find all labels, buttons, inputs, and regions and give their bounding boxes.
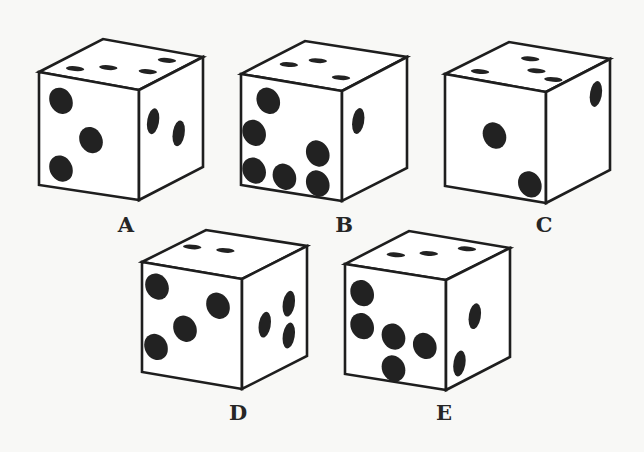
option-label-b[interactable]: B <box>335 212 353 237</box>
die-c <box>445 42 610 203</box>
die-d <box>142 230 307 389</box>
option-label-a[interactable]: A <box>117 212 135 237</box>
die-b <box>241 41 407 201</box>
dice-diagram: A B C D E <box>0 0 644 452</box>
die-a <box>39 39 203 200</box>
option-label-d[interactable]: D <box>229 400 247 425</box>
die-e <box>345 231 510 390</box>
option-label-c[interactable]: C <box>536 212 553 237</box>
option-label-e[interactable]: E <box>436 400 452 425</box>
